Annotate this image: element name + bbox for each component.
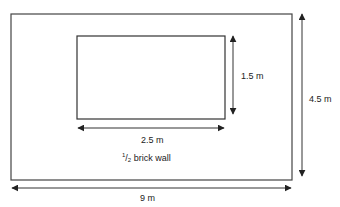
outer-height-label: 4.5 m [309,95,332,104]
wall-diagram [0,0,340,207]
opening-rect [77,36,225,119]
opening-width-label: 2.5 m [141,136,164,145]
wall-type-label: 1/2 brick wall [122,152,171,163]
wall-type-text: brick wall [131,153,171,163]
opening-height-label: 1.5 m [241,72,264,81]
fraction-numerator: 1 [122,152,125,158]
outer-width-label: 9 m [140,194,155,203]
